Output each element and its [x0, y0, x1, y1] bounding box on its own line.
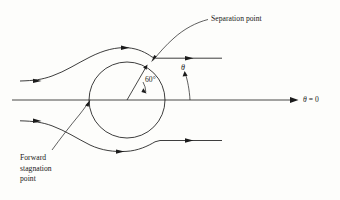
separation-point-leader-arrowhead-icon — [151, 55, 156, 62]
forward-stagnation-line-2: stagnation — [20, 164, 52, 173]
separation-point-label: Separation point — [211, 14, 262, 25]
upper-streamline-path — [20, 48, 222, 81]
theta-zero-arrowhead-icon — [290, 97, 299, 103]
upper-streamline-outlet-arrow-icon — [185, 56, 194, 60]
forward-stagnation-point-label: Forwardstagnationpoint — [20, 153, 52, 185]
upper-streamline-crest-arrow-icon — [121, 46, 130, 50]
figure-container: Separation point Forwardstagnationpoint … — [0, 0, 340, 200]
theta-angle-curve — [185, 74, 190, 101]
forward-stagnation-line-1: Forward — [20, 153, 46, 162]
separation-point-leader-line — [153, 20, 208, 61]
forward-stagnation-line-3: point — [20, 174, 36, 183]
upper-streamline-group — [20, 46, 222, 84]
separation-point-leader-group — [151, 20, 208, 63]
forward-stagnation-leader-line — [52, 103, 88, 150]
theta-zero-label: θ = 0 — [303, 95, 319, 106]
separation-radius-line — [127, 67, 146, 100]
lower-streamline-group — [20, 119, 222, 154]
lower-streamline-outlet-arrow-icon — [185, 138, 194, 142]
theta-angle-label: θ — [181, 63, 185, 74]
separation-angle-label: 60° — [145, 75, 156, 86]
lower-streamline-path — [20, 121, 222, 152]
lower-streamline-trough-arrow-icon — [116, 149, 125, 153]
theta-zero-axis-group — [12, 97, 299, 103]
theta-zero-equals: = 0 — [307, 95, 319, 104]
theta-angle-indicator-group — [183, 71, 190, 100]
